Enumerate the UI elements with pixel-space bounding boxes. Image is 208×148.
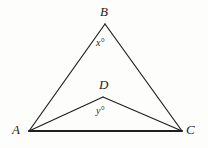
segment-ad: [29, 97, 103, 131]
angle-label-y: y°: [96, 106, 104, 116]
vertex-label-c: C: [186, 123, 195, 136]
geometry-figure: B x° D y° A C: [0, 0, 208, 148]
angle-label-x: x°: [96, 38, 104, 48]
triangle-diagram-svg: [0, 0, 208, 148]
segment-ab: [29, 24, 105, 131]
vertex-label-d: D: [99, 78, 108, 91]
vertex-label-a: A: [12, 123, 20, 136]
vertex-label-b: B: [100, 5, 108, 18]
